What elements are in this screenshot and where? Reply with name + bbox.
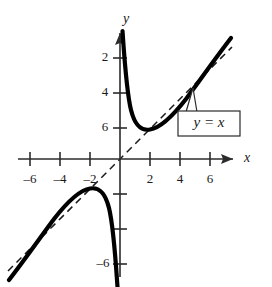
y-axis-label: y: [121, 11, 130, 26]
x-axis-label: x: [243, 150, 251, 165]
x-tick-label-4: 4: [177, 171, 184, 186]
y-tick-label--6: –6: [96, 255, 111, 270]
y-tick-label-2: 6: [102, 119, 109, 134]
callout-label: y = x: [192, 114, 225, 130]
x-tick-label-6: 6: [207, 171, 214, 186]
figure-container: –6 –4 –2 2 4 6 2 4 6 –6 x y y = x: [0, 0, 272, 287]
x-tick-label--4: –4: [53, 171, 68, 186]
curve-left-branch: [9, 188, 118, 287]
x-tick-label--2: –2: [83, 171, 97, 186]
x-tick-label-2: 2: [147, 171, 154, 186]
x-tick-label--6: –6: [23, 171, 38, 186]
graph-canvas: –6 –4 –2 2 4 6 2 4 6 –6 x y y = x: [0, 0, 272, 287]
y-tick-label-4: 4: [102, 84, 109, 99]
y-tick-label-6: 2: [102, 49, 109, 64]
